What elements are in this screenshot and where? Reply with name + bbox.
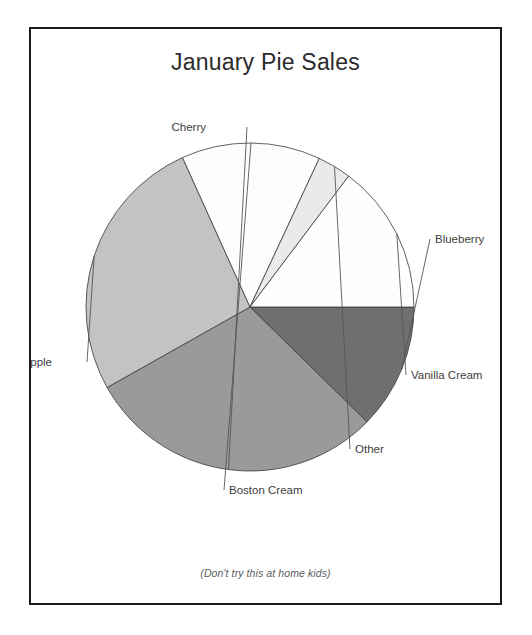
pie-label-vanilla-cream: Vanilla Cream	[411, 369, 482, 381]
pie-label-boston-cream: Boston Cream	[229, 484, 303, 496]
pie-label-apple: Apple	[29, 356, 52, 368]
chart-caption: (Don't try this at home kids)	[31, 567, 500, 579]
pie-label-cherry: Cherry	[171, 121, 206, 133]
pie-slice-group	[86, 143, 414, 471]
pie-label-blueberry: Blueberry	[435, 233, 484, 245]
chart-frame: January Pie Sales BlueberryCherryAppleBo…	[29, 27, 502, 605]
pie-chart: BlueberryCherryAppleBoston CreamOtherVan…	[29, 27, 502, 605]
pie-label-other: Other	[355, 443, 384, 455]
